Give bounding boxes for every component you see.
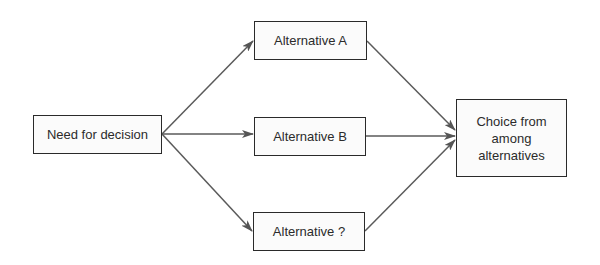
node-label: Choice from among alternatives xyxy=(476,112,546,164)
edge-need-to-alt-a xyxy=(162,41,253,134)
edge-alt-q-to-choice xyxy=(365,140,455,231)
node-alternative-unknown: Alternative ? xyxy=(253,212,365,251)
node-label: Alternative B xyxy=(273,128,347,145)
node-label: Alternative ? xyxy=(273,223,345,240)
edge-alt-a-to-choice xyxy=(367,41,455,130)
node-need-for-decision: Need for decision xyxy=(33,115,162,154)
node-label: Alternative A xyxy=(274,32,347,49)
node-label: Need for decision xyxy=(47,126,148,143)
node-alternative-a: Alternative A xyxy=(254,21,367,60)
node-choice-from-alternatives: Choice from among alternatives xyxy=(456,99,567,177)
decision-diagram: Need for decision Alternative A Alternat… xyxy=(0,0,600,265)
edge-need-to-alt-q xyxy=(162,134,252,231)
node-alternative-b: Alternative B xyxy=(254,117,366,156)
